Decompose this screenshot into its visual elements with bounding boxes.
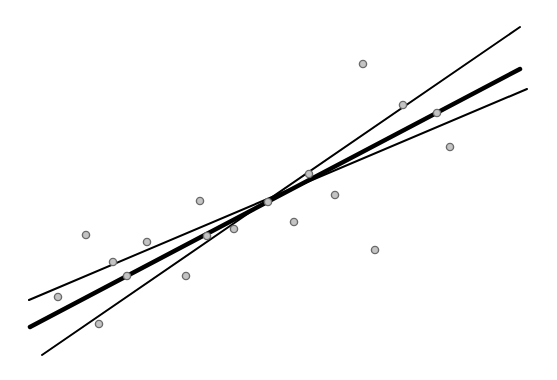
fit-line — [30, 69, 520, 327]
data-point-marker — [196, 197, 203, 204]
data-point-marker — [399, 101, 406, 108]
data-point-marker — [290, 218, 297, 225]
regression-lines — [29, 27, 527, 355]
data-point-marker — [359, 60, 366, 67]
data-point-marker — [230, 225, 237, 232]
data-point-marker — [143, 238, 150, 245]
data-point-marker — [182, 272, 189, 279]
steep-bound-line — [42, 27, 520, 355]
shallow-bound-line — [29, 89, 527, 300]
data-point-marker — [109, 258, 116, 265]
data-point-marker — [54, 293, 61, 300]
data-point-marker — [264, 198, 271, 205]
data-point-marker — [82, 231, 89, 238]
data-point-marker — [433, 109, 440, 116]
scatter-plot-canvas — [0, 0, 557, 380]
data-points — [54, 60, 453, 327]
data-point-marker — [203, 232, 210, 239]
scatter-plot — [0, 0, 557, 380]
data-point-marker — [446, 143, 453, 150]
data-point-marker — [123, 272, 130, 279]
data-point-marker — [331, 191, 338, 198]
data-point-marker — [305, 170, 312, 177]
data-point-marker — [371, 246, 378, 253]
data-point-marker — [95, 320, 102, 327]
